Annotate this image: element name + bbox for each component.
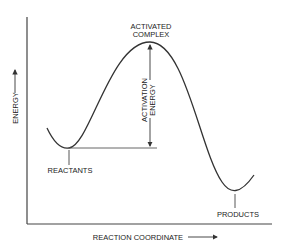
x-axis-label: REACTION COORDINATE [93, 233, 183, 242]
products-label: PRODUCTS [217, 210, 259, 219]
activation-energy-label-2: ENERGY [148, 84, 157, 116]
y-axis-label: ENERGY [11, 92, 20, 124]
energy-diagram: ACTIVATED COMPLEX ACTIVATION ENERGY REAC… [0, 0, 284, 250]
reactants-label: REACTANTS [48, 166, 93, 175]
activated-complex-label-2: COMPLEX [133, 30, 170, 39]
